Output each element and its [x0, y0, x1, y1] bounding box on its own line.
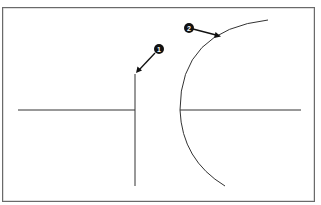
callout-1: 1 [136, 44, 164, 73]
callout-2-label: 2 [187, 25, 191, 32]
arrowhead-icon [214, 32, 221, 38]
callout-1-arrow [139, 53, 155, 70]
arc [180, 20, 268, 186]
callout-1-label: 1 [157, 46, 161, 53]
diagram-canvas: 1 2 [0, 0, 321, 205]
callout-2-arrow [193, 29, 216, 35]
callout-2: 2 [184, 23, 221, 38]
